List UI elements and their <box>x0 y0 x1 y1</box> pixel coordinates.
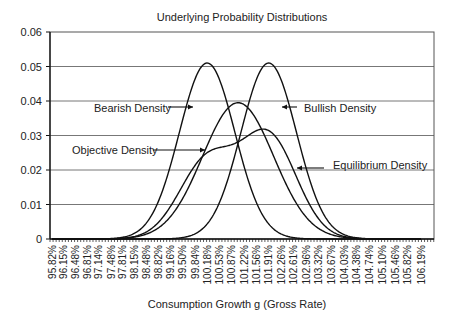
x-tick-label: 106.19% <box>416 245 427 285</box>
x-tick-label: 97.81% <box>117 245 128 279</box>
x-tick-label: 95.82% <box>47 245 58 279</box>
x-tick-label: 101.56% <box>251 245 262 285</box>
x-tick-label: 98.15% <box>129 245 140 279</box>
x-tick-label: 99.50% <box>177 245 188 279</box>
x-tick-label: 99.16% <box>165 245 176 279</box>
x-tick-label: 105.10% <box>377 245 388 285</box>
x-tick-label: 102.26% <box>276 245 287 285</box>
annotation-label: Bullish Density <box>304 102 377 114</box>
x-tick-label: 96.81% <box>82 245 93 279</box>
arrow-head-icon <box>282 105 287 110</box>
x-tick-label: 102.96% <box>301 245 312 285</box>
x-tick-label: 98.48% <box>141 245 152 279</box>
x-tick-label: 97.48% <box>106 245 117 279</box>
x-tick-label: 102.61% <box>288 245 299 285</box>
x-tick-label: 100.18% <box>202 245 213 285</box>
annotations: Bearish DensityBullish DensityObjective … <box>72 102 428 171</box>
x-tick-label: 101.91% <box>263 245 274 285</box>
x-tick-label: 97.14% <box>93 245 104 279</box>
x-tick-label: 96.48% <box>70 245 81 279</box>
y-axis-ticks: 00.010.020.030.040.050.06 <box>21 26 50 245</box>
y-tick-label: 0.02 <box>21 164 42 176</box>
x-tick-label: 99.84% <box>190 245 201 279</box>
x-tick-label: 104.74% <box>364 245 375 285</box>
annotation-label: Bearish Density <box>94 102 172 114</box>
x-tick-label: 100.87% <box>226 245 237 285</box>
x-tick-label: 104.38% <box>351 245 362 285</box>
x-axis-ticks: 95.82%96.15%96.48%96.81%97.14%97.48%97.8… <box>47 239 434 284</box>
y-tick-label: 0.06 <box>21 26 42 38</box>
y-tick-label: 0.04 <box>21 95 42 107</box>
x-tick-label: 105.46% <box>390 245 401 285</box>
y-tick-label: 0.05 <box>21 61 42 73</box>
x-tick-label: 104.03% <box>339 245 350 285</box>
y-tick-label: 0.01 <box>21 199 42 211</box>
y-tick-label: 0 <box>36 233 42 245</box>
gridlines <box>50 67 434 205</box>
arrow-head-icon <box>188 105 193 110</box>
density-chart: Underlying Probability Distributions 00.… <box>0 0 458 324</box>
x-tick-label: 101.22% <box>239 245 250 285</box>
x-axis-label: Consumption Growth g (Gross Rate) <box>148 298 327 310</box>
y-tick-label: 0.03 <box>21 130 42 142</box>
x-tick-label: 103.67% <box>326 245 337 285</box>
x-tick-label: 105.82% <box>402 245 413 285</box>
x-tick-label: 98.82% <box>153 245 164 279</box>
x-tick-label: 103.32% <box>313 245 324 285</box>
x-tick-label: 100.53% <box>214 245 225 285</box>
annotation-label: Equilibrium Density <box>333 159 428 171</box>
x-tick-label: 96.15% <box>58 245 69 279</box>
annotation-label: Objective Density <box>72 144 158 156</box>
chart-title: Underlying Probability Distributions <box>157 11 328 23</box>
